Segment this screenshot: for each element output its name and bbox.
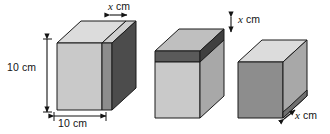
label-x-bottom-third: x cm <box>295 110 317 121</box>
label-x-top-first-unit: cm <box>116 0 130 12</box>
prism2-slab-front-face <box>155 51 200 62</box>
prism1-slice-front-face <box>102 43 112 110</box>
label-x-top-second-unit: cm <box>246 13 260 25</box>
diagram-canvas <box>0 0 330 134</box>
prism-horizontal-slab <box>155 29 224 118</box>
prism-vertical-slice <box>57 21 136 110</box>
prism-depth-slice <box>238 40 307 118</box>
label-x-top-first: x cm <box>108 1 130 12</box>
label-x-top-second: x cm <box>238 14 260 25</box>
label-height-first: 10 cm <box>7 62 36 73</box>
label-x-bottom-third-unit: cm <box>303 109 317 121</box>
prism3-front-face <box>238 62 283 118</box>
label-width-first: 10 cm <box>58 118 87 129</box>
prism1-front-face <box>57 43 102 110</box>
prism2-body-front-face <box>155 62 200 118</box>
diagram-svg <box>0 0 330 134</box>
